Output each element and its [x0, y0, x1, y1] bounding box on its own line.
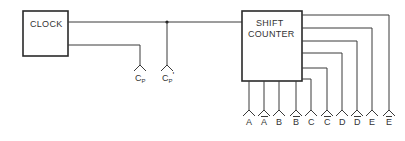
- svg-text:CP: CP: [135, 73, 146, 84]
- counter-label: COUNTER: [248, 29, 295, 39]
- cp-prime-output: CP': [161, 22, 175, 84]
- output-a: A: [246, 117, 252, 127]
- fork-icon: [161, 65, 173, 71]
- shift-counter-block: SHIFT COUNTER: [242, 11, 302, 81]
- shift-label: SHIFT: [256, 18, 284, 28]
- svg-text:CP': CP': [162, 70, 175, 84]
- output-d-bar: D: [354, 117, 361, 127]
- output-a-bar: A: [261, 117, 267, 127]
- output-b: B: [276, 117, 282, 127]
- clock-block: CLOCK: [23, 11, 68, 56]
- output-e: E: [369, 117, 375, 127]
- counter-output-labels: A A B B C C D D E E: [246, 117, 392, 128]
- counter-output-forks: [243, 110, 395, 116]
- output-e-bar: E: [386, 117, 392, 127]
- diagram-canvas: CLOCK CP' CP SHIFT COUNTER: [0, 0, 405, 141]
- output-c: C: [308, 117, 315, 127]
- fork-icon: [134, 65, 146, 71]
- output-c-bar: C: [324, 117, 331, 127]
- output-b-bar: B: [293, 117, 299, 127]
- output-d: D: [339, 117, 346, 127]
- cp-output: CP: [68, 45, 146, 84]
- clock-label: CLOCK: [30, 19, 63, 29]
